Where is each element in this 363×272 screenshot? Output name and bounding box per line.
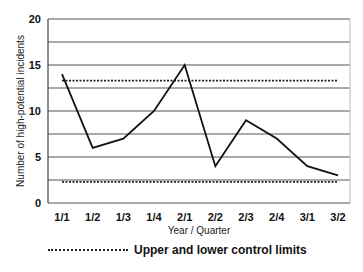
x-axis-ticks: 1/11/21/31/42/12/22/32/43/13/2 (54, 211, 345, 223)
svg-text:1/1: 1/1 (54, 211, 69, 223)
dotted-line-swatch (48, 249, 128, 251)
svg-text:2/1: 2/1 (177, 211, 192, 223)
svg-text:2/2: 2/2 (208, 211, 223, 223)
svg-text:3/2: 3/2 (330, 211, 345, 223)
svg-text:2/3: 2/3 (238, 211, 253, 223)
svg-text:20: 20 (29, 13, 41, 25)
control-limit-lines (62, 81, 338, 182)
incident-series-line (62, 65, 338, 175)
y-axis-title: Number of high-potential incidents (15, 35, 26, 187)
svg-text:10: 10 (29, 105, 41, 117)
svg-text:0: 0 (35, 197, 41, 209)
svg-text:3/1: 3/1 (300, 211, 315, 223)
x-axis-title: Year / Quarter (168, 225, 231, 236)
svg-text:15: 15 (29, 59, 41, 71)
svg-text:2/4: 2/4 (269, 211, 285, 223)
svg-text:1/2: 1/2 (85, 211, 100, 223)
line-chart: 05101520 1/11/21/31/42/12/22/32/43/13/2 … (0, 0, 363, 240)
svg-text:1/3: 1/3 (116, 211, 131, 223)
y-axis-ticks: 05101520 (29, 13, 41, 209)
svg-text:1/4: 1/4 (146, 211, 162, 223)
legend-label: Upper and lower control limits (134, 243, 307, 257)
legend: Upper and lower control limits (48, 243, 307, 257)
svg-text:5: 5 (35, 151, 41, 163)
